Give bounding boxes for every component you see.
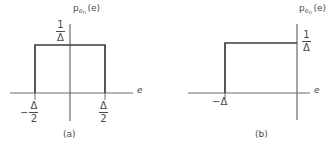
panel-a-y-axis-label: pen(e) xyxy=(73,4,100,15)
panel-a-y-axis-label-sub-inner: n xyxy=(83,9,86,15)
panel-b-y-axis-label-sub-outer: en xyxy=(305,7,312,15)
panel-a-height-numerator: 1 xyxy=(56,20,65,31)
panel-a-left-tick-numerator: Δ xyxy=(29,101,38,112)
panel-b-height-denominator: Δ xyxy=(302,43,311,54)
panel-a-height-fraction: 1 Δ xyxy=(56,20,65,43)
panel-b-pdf-curve xyxy=(225,43,297,93)
panel-b-y-axis-label: pen(e) xyxy=(299,4,326,15)
panel-b-y-axis-label-arg: (e) xyxy=(313,3,326,13)
panel-a-height-label: 1 Δ xyxy=(56,20,65,43)
panel-a-right-tick-fraction: Δ 2 xyxy=(99,101,108,124)
figure-canvas xyxy=(0,0,331,155)
panel-a-height-denominator: Δ xyxy=(56,33,65,44)
panel-a-left-tick-fraction: Δ 2 xyxy=(29,101,38,124)
panel-a-x-axis-label: e xyxy=(137,86,143,95)
panel-a-left-tick-sign: − xyxy=(20,108,28,118)
panel-b-caption: (b) xyxy=(255,130,268,139)
panel-a-right-tick-denominator: 2 xyxy=(99,114,108,125)
panel-a-left-tick-denominator: 2 xyxy=(29,114,38,125)
panel-b-height-label: 1 Δ xyxy=(302,30,311,53)
panel-a-caption: (a) xyxy=(63,130,76,139)
panel-b-left-tick-label: −Δ xyxy=(212,97,227,107)
panel-b-y-axis-label-sub-inner: n xyxy=(309,9,312,15)
panel-a-y-axis-label-sub-outer: en xyxy=(79,7,86,15)
panel-a-right-tick-numerator: Δ xyxy=(99,101,108,112)
panel-a-y-axis-label-arg: (e) xyxy=(87,3,100,13)
panel-a-right-tick-label: Δ 2 xyxy=(99,101,108,124)
panel-b-height-fraction: 1 Δ xyxy=(302,30,311,53)
panel-b-x-axis-label: e xyxy=(314,86,320,95)
panel-a-left-tick-label: − Δ 2 xyxy=(20,101,38,124)
panel-b-height-numerator: 1 xyxy=(302,30,311,41)
panel-b-graphics xyxy=(188,24,310,120)
figure-root: pen(e) 1 Δ e − Δ 2 Δ 2 (a) pen(e) 1 Δ xyxy=(0,0,331,155)
